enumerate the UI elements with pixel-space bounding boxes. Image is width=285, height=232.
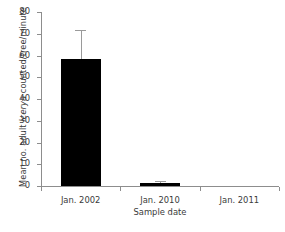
y-tick: 50	[37, 77, 41, 78]
error-bar-cap	[155, 181, 166, 182]
x-tick	[120, 187, 121, 191]
y-tick: 30	[37, 121, 41, 122]
bar	[140, 183, 180, 186]
y-tick-label: 80	[19, 6, 30, 17]
x-tick-label: Jan. 2002	[61, 195, 101, 205]
y-tick: 40	[37, 99, 41, 100]
x-axis-title: Sample date	[41, 207, 279, 217]
y-tick: 60	[37, 56, 41, 57]
y-tick-label: 30	[19, 115, 30, 126]
y-tick-label: 10	[19, 158, 30, 169]
x-tick	[41, 187, 42, 191]
chart-figure: Mean no. adult Icerya counted/tree/minut…	[0, 0, 285, 232]
y-tick-label: 0	[25, 180, 30, 191]
y-tick-label: 20	[19, 137, 30, 148]
y-tick: 10	[37, 164, 41, 165]
x-tick	[200, 187, 201, 191]
error-bar-cap	[75, 30, 86, 31]
y-tick-label: 60	[19, 50, 30, 61]
plot-area: 01020304050607080 Jan. 2002Jan. 2010Jan.…	[41, 12, 279, 187]
y-tick-label: 70	[19, 28, 30, 39]
y-axis-line	[41, 12, 42, 187]
x-tick	[279, 187, 280, 191]
y-axis-title-before: Mean no. adult	[18, 122, 28, 187]
x-axis-line	[41, 186, 279, 187]
x-tick-label: Jan. 2011	[220, 195, 260, 205]
y-tick: 70	[37, 34, 41, 35]
y-tick-label: 50	[19, 71, 30, 82]
y-tick: 80	[37, 12, 41, 13]
bar	[61, 59, 101, 186]
error-bar-stem	[81, 30, 82, 59]
x-tick-label: Jan. 2010	[140, 195, 180, 205]
y-tick-label: 40	[19, 93, 30, 104]
y-tick: 20	[37, 143, 41, 144]
